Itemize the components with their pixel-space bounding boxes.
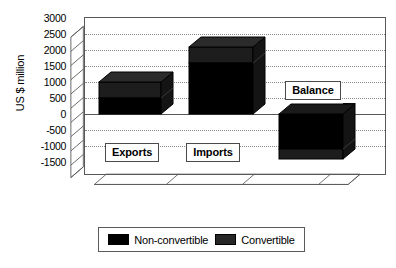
bar-balance	[278, 103, 370, 169]
y-tick-neg1500: -1500	[20, 157, 66, 167]
bar-balance-segment-convertible	[279, 149, 343, 159]
legend-label-convertible: Convertible	[241, 234, 294, 246]
y-tick-neg1000: -1000	[20, 141, 66, 151]
y-tick-1000: 1000	[20, 77, 66, 87]
bar-exports-segment-nonconvertible	[99, 98, 161, 114]
y-tick-0: 0	[20, 109, 66, 119]
bar-imports-segment-nonconvertible	[189, 63, 253, 114]
bar-balance-top-cap	[279, 104, 355, 114]
bar-imports-top-cap	[189, 37, 265, 47]
bar-imports-segment-convertible	[189, 47, 253, 63]
bar-exports	[98, 67, 184, 123]
bar-balance-segment-nonconvertible	[279, 114, 343, 149]
data-label-imports: Imports	[186, 143, 240, 162]
data-label-balance: Balance	[285, 81, 341, 100]
chart-legend: Non-convertible Convertible	[98, 227, 305, 252]
y-tick-neg500: -500	[20, 125, 66, 135]
legend-swatch-convertible	[215, 234, 236, 245]
y-tick-3000: 3000	[20, 13, 66, 23]
legend-item-convertible: Convertible	[215, 234, 294, 246]
y-tick-1500: 1500	[20, 61, 66, 71]
data-label-exports: Exports	[105, 143, 159, 162]
plot-floor	[70, 165, 386, 187]
y-tick-2500: 2500	[20, 29, 66, 39]
bar-imports-side-face	[253, 37, 265, 114]
y-axis-tick-labels: 3000 2500 2000 1500 1000 500 0 -500 -100…	[20, 0, 66, 268]
legend-item-nonconvertible: Non-convertible	[108, 234, 208, 246]
legend-label-nonconvertible: Non-convertible	[134, 234, 208, 246]
y-tick-500: 500	[20, 93, 66, 103]
bar-exports-segment-convertible	[99, 82, 161, 98]
bar-chart: US $ million 3000 2500 2000 1500 1000 50…	[0, 0, 396, 268]
legend-swatch-nonconvertible	[108, 234, 129, 245]
bar-exports-top-cap	[99, 72, 173, 82]
bar-imports	[188, 22, 280, 124]
y-tick-2000: 2000	[20, 45, 66, 55]
